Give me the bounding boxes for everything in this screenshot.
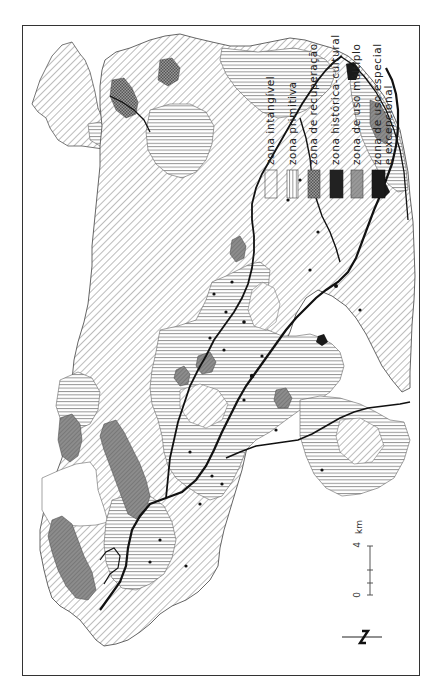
north-arrow-icon (342, 631, 382, 643)
legend-swatch-uso-especial (372, 170, 385, 198)
scale-bar (367, 546, 373, 595)
legend-label-uso-especial: zona de uso especial e excepcional (372, 43, 394, 165)
legend-label-intangivel: zona intangível (265, 76, 276, 165)
legend-label-recuperacao: zona de recuperação (308, 43, 319, 165)
scale-label-start: 0 (352, 592, 362, 598)
legend-swatch-intangivel (265, 170, 277, 198)
legend-label-historica: zona histórica-cultural (330, 34, 341, 165)
legend-label-uso-multiplo: zona de uso múltiplo (351, 43, 362, 165)
legend-swatch-historica (330, 170, 343, 198)
legend-label-primitiva: zona primitiva (287, 82, 298, 166)
legend-swatch-uso-multiplo (351, 170, 363, 198)
scale-label-end: 4 (352, 542, 362, 548)
legend-swatch-recuperacao (308, 170, 320, 198)
legend-swatch-primitiva (287, 170, 298, 198)
scale-label-unit: km (354, 520, 364, 534)
